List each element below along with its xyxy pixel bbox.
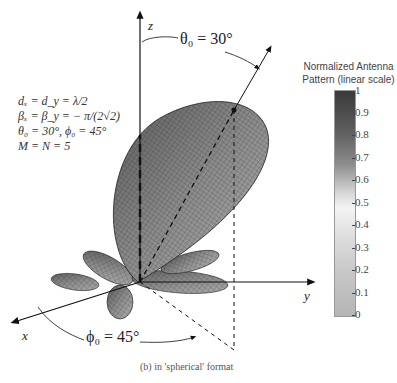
param-spacing: dₓ = d_y = λ/2 [18, 94, 120, 109]
colorbar-tick: 0.9 [355, 106, 369, 118]
phi-annotation: ϕ₀ = 45° [86, 328, 139, 346]
theta-annotation: θ₀ = 30° [180, 30, 233, 48]
colorbar-tick: 0.8 [355, 128, 369, 140]
colorbar-tick: 0.1 [355, 286, 369, 298]
colorbar-tick: 0 [355, 308, 361, 320]
param-angles: θ₀ = 30°, ϕ₀ = 45° [18, 124, 120, 139]
colorbar-tick: 0.6 [355, 173, 369, 185]
figure-caption: (b) in 'spherical' format [140, 361, 233, 372]
y-axis-label: y [304, 288, 310, 304]
param-phase: βₓ = β_y = − π/(2√2) [18, 109, 120, 124]
colorbar-tick: 1 [355, 84, 361, 96]
array-parameters: dₓ = d_y = λ/2 βₓ = β_y = − π/(2√2) θ₀ =… [18, 94, 120, 154]
colorbar-title: Normalized Antenna Pattern (linear scale… [296, 60, 397, 86]
x-axis-label: x [22, 328, 28, 344]
z-axis-label: z [148, 18, 153, 34]
colorbar-tick: 0.4 [355, 218, 369, 230]
param-size: M = N = 5 [18, 139, 120, 154]
colorbar-tick: 0.2 [355, 263, 369, 275]
colorbar-tick: 0.7 [355, 151, 369, 163]
colorbar-tick: 0.5 [355, 196, 369, 208]
colorbar-tick: 0.3 [355, 241, 369, 253]
